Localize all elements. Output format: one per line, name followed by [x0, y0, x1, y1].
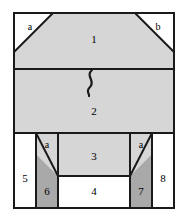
corner-label-a-bottom-right: a: [139, 139, 144, 150]
region-8-shape: [152, 133, 174, 208]
region-5-shape: [14, 133, 36, 208]
corner-label-a-top-left: a: [28, 21, 33, 32]
region-4-label: 4: [91, 185, 97, 197]
region-2-shape: [14, 69, 174, 133]
region-2-label: 2: [91, 105, 97, 117]
region-7-label: 7: [138, 185, 144, 197]
region-3-label: 3: [91, 150, 97, 162]
corner-label-a-bottom-left: a: [45, 139, 50, 150]
figure-container: 1 2 3 4 5 6 7 8 a b a a: [0, 0, 188, 223]
cross-section-diagram: 1 2 3 4 5 6 7 8 a b a a: [0, 0, 188, 223]
region-1-label: 1: [91, 33, 97, 45]
region-8-label: 8: [160, 172, 166, 184]
corner-label-b-top-right: b: [156, 21, 161, 32]
region-5-label: 5: [22, 172, 28, 184]
region-6-label: 6: [44, 185, 50, 197]
